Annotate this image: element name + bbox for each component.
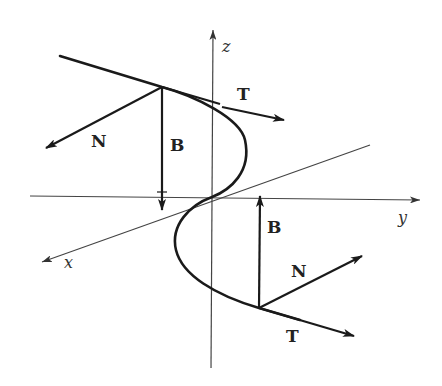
y-axis-label: y [397, 208, 408, 227]
space-curve [60, 56, 300, 320]
frame-top [46, 87, 284, 210]
z-axis-label: z [221, 37, 231, 56]
tangent-label-top: T [237, 84, 250, 104]
binormal-vector-bottom [259, 196, 260, 308]
x-axis [42, 145, 370, 262]
normal-label-bottom: N [291, 261, 307, 281]
frenet-frame-diagram: z y x T N B B N T [0, 0, 442, 386]
normal-label-top: N [91, 131, 107, 151]
x-axis-label: x [64, 253, 73, 272]
z-axis [211, 30, 213, 368]
binormal-label-top: B [170, 135, 184, 155]
tangent-vector-bottom [259, 308, 354, 336]
axes [30, 30, 420, 368]
normal-vector-bottom [259, 256, 362, 308]
tangent-arrow-top [222, 107, 284, 120]
binormal-label-bottom: B [267, 217, 281, 237]
tangent-vector-top [162, 87, 220, 104]
tangent-label-bottom: T [286, 326, 299, 346]
